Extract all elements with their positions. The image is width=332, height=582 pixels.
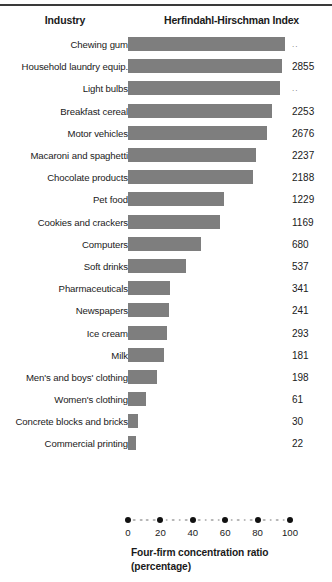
chart-row: Ice cream293 [0,321,332,343]
chart-row: Motor vehicles2676 [0,122,332,144]
axis-tick-label: 80 [252,527,263,538]
axis-tick-label: 60 [220,527,231,538]
row-label-industry: Pet food [93,194,128,205]
bar [128,326,167,340]
x-axis-caption-line2: (percentage) [131,560,326,574]
row-value-hhi: 2188 [292,172,328,183]
bar-track [128,211,290,233]
axis-tick-dot-minor [198,519,201,522]
bar [128,81,280,95]
axis-tick-dot-minor [230,519,233,522]
axis-tick-dot-major [255,517,261,523]
bar-track [128,432,290,454]
chart-row: Newspapers241 [0,299,332,321]
row-label-industry: Milk [111,349,128,360]
row-label-industry: Commercial printing [45,438,128,449]
chart-row: Chocolate products2188 [0,166,332,188]
bar-track [128,410,290,432]
column-header-industry: Industry [0,14,130,26]
bar [128,281,170,295]
chart-row: Household laundry equip.2855 [0,55,332,77]
concentration-chart: Industry Herfindahl-Hirschman Index Chew… [0,0,332,582]
bar [128,192,224,206]
axis-tick-dot-minor [185,519,188,522]
axis-tick-dot-minor [179,519,182,522]
x-axis-dots [128,516,328,526]
bar [128,104,272,118]
bar-track [128,277,290,299]
axis-tick-dot-minor [276,519,279,522]
row-value-hhi: 2855 [292,61,328,72]
row-label-industry: Light bulbs [83,83,128,94]
bar-track [128,122,290,144]
row-value-unavailable: .. [292,84,328,93]
axis-tick-dot-minor [146,519,149,522]
chart-row: Soft drinks537 [0,255,332,277]
axis-tick-dot-minor [211,519,214,522]
axis-tick-label: 40 [187,527,198,538]
axis-tick-dot-minor [166,519,169,522]
column-header-hhi: Herfindahl-Hirschman Index [131,14,332,26]
axis-tick-dot-major [190,517,196,523]
axis-tick-dot-major [287,517,293,523]
axis-tick-dot-minor [172,519,175,522]
bar-track [128,233,290,255]
bar-track [128,188,290,210]
row-value-hhi: 537 [292,260,328,271]
chart-row: Computers680 [0,233,332,255]
bar-track [128,55,290,77]
row-label-industry: Breakfast cereal [60,105,128,116]
row-value-hhi: 2237 [292,150,328,161]
bar-track [128,144,290,166]
bar [128,215,220,229]
bar [128,59,282,73]
bar [128,370,157,384]
row-value-hhi: 1229 [292,194,328,205]
chart-row: Concrete blocks and bricks30 [0,410,332,432]
bar-track [128,366,290,388]
axis-tick-dot-minor [140,519,143,522]
row-value-hhi: 181 [292,349,328,360]
axis-tick-dot-minor [237,519,240,522]
row-label-industry: Soft drinks [84,260,128,271]
bar-track [128,100,290,122]
axis-tick-dot-minor [243,519,246,522]
x-axis-tick-labels: 020406080100 [128,527,328,540]
chart-row: Macaroni and spaghetti2237 [0,144,332,166]
bar [128,414,138,428]
bar [128,436,136,450]
row-value-hhi: 30 [292,416,328,427]
axis-tick-dot-minor [133,519,136,522]
bar-track [128,166,290,188]
row-label-industry: Women's clothing [54,394,128,405]
bar [128,148,256,162]
x-axis-caption-line1: Four-firm concentration ratio [131,546,326,560]
chart-row: Pharmaceuticals341 [0,277,332,299]
chart-row: Women's clothing61 [0,388,332,410]
bar [128,237,201,251]
bar [128,170,253,184]
row-value-hhi: 241 [292,305,328,316]
row-label-industry: Chewing gum [70,39,128,50]
bar-track [128,255,290,277]
row-label-industry: Motor vehicles [68,127,128,138]
chart-row: Men's and boys' clothing198 [0,366,332,388]
row-value-hhi: 22 [292,438,328,449]
row-label-industry: Cookies and crackers [38,216,128,227]
row-label-industry: Macaroni and spaghetti [30,150,128,161]
row-value-hhi: 198 [292,371,328,382]
chart-row: Chewing gum.. [0,33,332,55]
chart-row: Pet food1229 [0,188,332,210]
row-label-industry: Household laundry equip. [22,61,128,72]
row-value-hhi: 341 [292,283,328,294]
bar-track [128,388,290,410]
axis-tick-dot-minor [250,519,253,522]
row-value-unavailable: .. [292,40,328,49]
bar-track [128,321,290,343]
chart-row: Commercial printing22 [0,432,332,454]
row-value-hhi: 61 [292,394,328,405]
row-label-industry: Men's and boys' clothing [26,371,128,382]
bar [128,348,164,362]
row-label-industry: Concrete blocks and bricks [15,416,128,427]
row-label-industry: Ice cream [87,327,128,338]
